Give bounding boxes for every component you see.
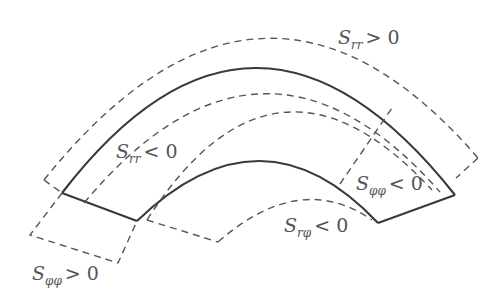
region-sphiphi-positive (30, 193, 137, 263)
label-sphiphi-negative: Sφφ< 0 (356, 172, 423, 198)
outer-dashed-left-end (44, 180, 62, 193)
label-srr-positive: Srr> 0 (338, 26, 400, 52)
label-srr-negative: Srr< 0 (116, 140, 178, 166)
right-radial-edge (378, 195, 455, 223)
outer-dashed-arc (44, 38, 478, 180)
stress-diagram: Srr> 0 Srr< 0 Sφφ< 0 Srφ< 0 Sφφ> 0 (0, 0, 500, 299)
srphi-neg-left-edge (147, 220, 218, 242)
left-radial-edge (62, 193, 137, 221)
outer-dashed-right-end (456, 158, 478, 178)
label-sphiphi-positive: Sφφ> 0 (32, 262, 99, 288)
sphiphi-pos-box (30, 193, 137, 263)
label-srphi-negative: Srφ< 0 (284, 214, 348, 240)
